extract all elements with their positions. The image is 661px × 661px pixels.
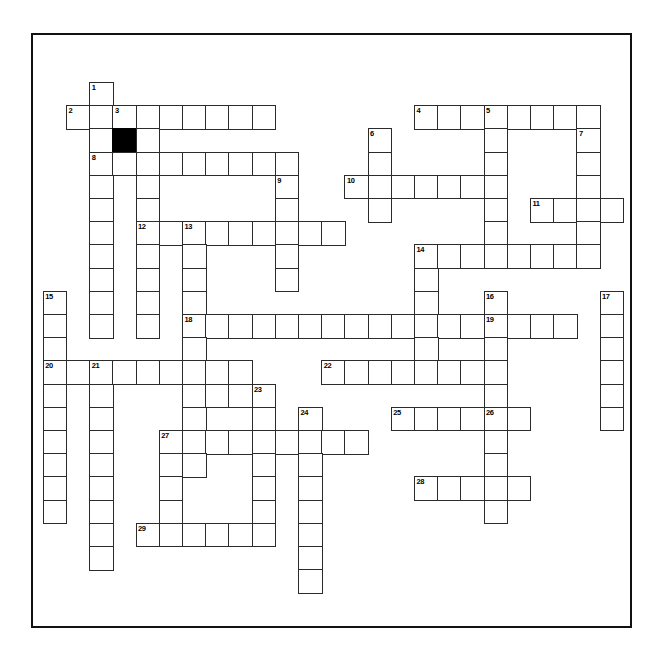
crossword-cell[interactable] (298, 221, 323, 246)
crossword-cell[interactable] (136, 105, 161, 130)
crossword-cell[interactable]: 22 (321, 360, 346, 385)
crossword-cell[interactable] (275, 244, 300, 269)
crossword-cell[interactable]: 4 (414, 105, 439, 130)
crossword-cell[interactable] (391, 175, 416, 200)
crossword-cell[interactable] (437, 105, 462, 130)
crossword-cell[interactable] (228, 430, 253, 455)
crossword-cell[interactable] (484, 175, 509, 200)
crossword-cell[interactable] (576, 221, 601, 246)
crossword-cell[interactable] (89, 221, 114, 246)
crossword-cell[interactable] (182, 360, 207, 385)
crossword-cell[interactable] (89, 546, 114, 571)
crossword-cell[interactable] (600, 198, 625, 223)
crossword-cell[interactable] (89, 128, 114, 153)
crossword-cell[interactable] (89, 476, 114, 501)
crossword-cell[interactable] (553, 105, 578, 130)
crossword-cell[interactable] (298, 546, 323, 571)
crossword-cell[interactable] (414, 314, 439, 339)
crossword-cell[interactable] (136, 128, 161, 153)
crossword-cell[interactable] (182, 407, 207, 432)
crossword-cell[interactable] (484, 128, 509, 153)
crossword-cell[interactable] (275, 221, 300, 246)
crossword-cell[interactable] (89, 105, 114, 130)
crossword-cell[interactable] (136, 175, 161, 200)
crossword-cell[interactable]: 2 (66, 105, 91, 130)
crossword-cell[interactable] (298, 500, 323, 525)
crossword-cell[interactable] (275, 152, 300, 177)
crossword-cell[interactable] (600, 314, 625, 339)
crossword-cell[interactable] (136, 268, 161, 293)
crossword-cell[interactable] (460, 175, 485, 200)
crossword-cell[interactable]: 20 (43, 360, 68, 385)
crossword-cell[interactable]: 8 (89, 152, 114, 177)
crossword-cell[interactable] (576, 105, 601, 130)
crossword-cell[interactable] (159, 523, 184, 548)
crossword-cell[interactable] (437, 244, 462, 269)
crossword-cell[interactable] (43, 453, 68, 478)
crossword-cell[interactable] (553, 244, 578, 269)
crossword-cell[interactable] (205, 152, 230, 177)
crossword-cell[interactable] (344, 314, 369, 339)
crossword-cell[interactable] (136, 244, 161, 269)
crossword-cell[interactable] (275, 198, 300, 223)
crossword-cell[interactable] (89, 198, 114, 223)
crossword-cell[interactable] (136, 360, 161, 385)
crossword-cell[interactable] (553, 198, 578, 223)
crossword-cell[interactable] (182, 268, 207, 293)
crossword-cell[interactable] (205, 314, 230, 339)
crossword-cell[interactable]: 14 (414, 244, 439, 269)
crossword-cell[interactable] (112, 152, 137, 177)
crossword-cell[interactable] (298, 476, 323, 501)
crossword-cell[interactable] (275, 430, 300, 455)
crossword-cell[interactable]: 21 (89, 360, 114, 385)
crossword-cell[interactable] (43, 384, 68, 409)
crossword-cell[interactable] (182, 523, 207, 548)
crossword-cell[interactable] (368, 198, 393, 223)
crossword-cell[interactable] (43, 337, 68, 362)
crossword-cell[interactable] (460, 476, 485, 501)
crossword-cell[interactable] (182, 430, 207, 455)
crossword-cell[interactable] (484, 221, 509, 246)
crossword-cell[interactable] (484, 476, 509, 501)
crossword-cell[interactable] (275, 314, 300, 339)
crossword-cell[interactable] (437, 360, 462, 385)
crossword-cell[interactable] (205, 523, 230, 548)
crossword-cell[interactable] (89, 407, 114, 432)
crossword-cell[interactable] (507, 476, 532, 501)
crossword-cell[interactable] (205, 384, 230, 409)
crossword-cell[interactable] (298, 523, 323, 548)
crossword-cell[interactable] (600, 407, 625, 432)
crossword-cell[interactable] (321, 314, 346, 339)
crossword-cell[interactable] (275, 268, 300, 293)
crossword-cell[interactable] (252, 152, 277, 177)
crossword-cell[interactable] (600, 337, 625, 362)
crossword-cell[interactable] (159, 453, 184, 478)
crossword-cell[interactable]: 5 (484, 105, 509, 130)
crossword-cell[interactable]: 17 (600, 291, 625, 316)
crossword-cell[interactable] (66, 360, 91, 385)
crossword-cell[interactable]: 16 (484, 291, 509, 316)
crossword-cell[interactable] (391, 314, 416, 339)
crossword-cell[interactable] (252, 314, 277, 339)
crossword-cell[interactable] (298, 569, 323, 594)
crossword-cell[interactable]: 26 (484, 407, 509, 432)
crossword-cell[interactable] (252, 500, 277, 525)
crossword-cell[interactable]: 25 (391, 407, 416, 432)
crossword-cell[interactable] (112, 360, 137, 385)
crossword-cell[interactable] (205, 105, 230, 130)
crossword-cell[interactable] (460, 314, 485, 339)
crossword-cell[interactable] (484, 500, 509, 525)
crossword-cell[interactable] (182, 152, 207, 177)
crossword-cell[interactable] (159, 221, 184, 246)
crossword-cell[interactable] (507, 407, 532, 432)
crossword-cell[interactable] (136, 198, 161, 223)
crossword-cell[interactable]: 15 (43, 291, 68, 316)
crossword-cell[interactable] (43, 407, 68, 432)
crossword-cell[interactable] (89, 430, 114, 455)
crossword-cell[interactable]: 12 (136, 221, 161, 246)
crossword-cell[interactable] (530, 314, 555, 339)
crossword-cell[interactable] (252, 523, 277, 548)
crossword-cell[interactable] (414, 337, 439, 362)
crossword-cell[interactable] (89, 244, 114, 269)
crossword-cell[interactable] (321, 221, 346, 246)
